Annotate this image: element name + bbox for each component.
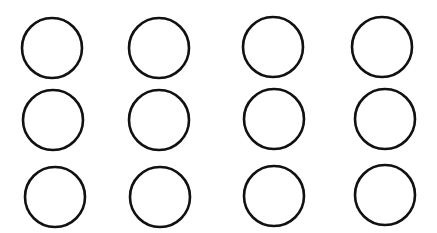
circle-r2-c2 <box>129 90 189 150</box>
circle-r3-c4 <box>355 165 415 225</box>
circle-r3-c2 <box>130 167 190 227</box>
circle-r1-c1 <box>22 18 82 78</box>
circle-r2-c4 <box>355 89 415 149</box>
circle-r3-c3 <box>244 166 304 226</box>
circle-r2-c3 <box>244 89 304 149</box>
circle-r2-c1 <box>23 90 83 150</box>
circle-r1-c2 <box>129 18 189 78</box>
circle-grid <box>0 0 437 233</box>
circle-grid-diagram <box>0 0 437 233</box>
circle-r1-c4 <box>352 17 412 77</box>
circle-r1-c3 <box>243 17 303 77</box>
circle-r3-c1 <box>25 167 85 227</box>
